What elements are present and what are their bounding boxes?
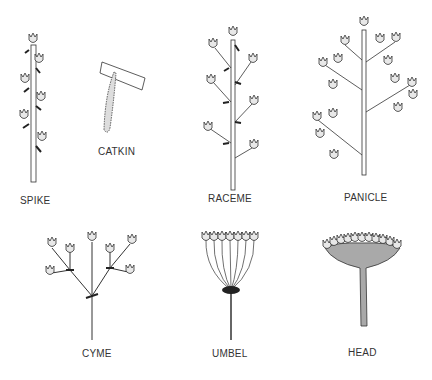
umbel-illustration (202, 231, 258, 340)
label-cyme: CYME (82, 348, 112, 359)
raceme-illustration (204, 26, 258, 190)
label-spike: SPIKE (20, 195, 50, 206)
label-raceme: RACEME (208, 193, 252, 204)
inflorescence-diagram (0, 0, 432, 380)
catkin-illustration (100, 62, 145, 132)
label-umbel: UMBEL (212, 348, 247, 359)
panicle-illustration (313, 16, 417, 175)
label-head: HEAD (348, 347, 377, 358)
spike-illustration (20, 33, 46, 182)
head-illustration (323, 232, 401, 326)
cyme-illustration (46, 231, 136, 340)
label-catkin: CATKIN (98, 146, 135, 157)
label-panicle: PANICLE (344, 192, 387, 203)
